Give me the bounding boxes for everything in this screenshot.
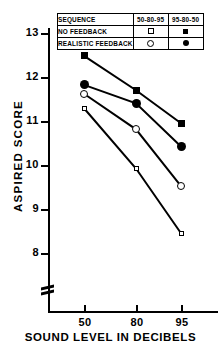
chart-figure: ASPIRED SCORE 13 12 11 10 9 8 50 80 95 S… (0, 0, 221, 352)
data-point (179, 231, 184, 236)
data-point (133, 87, 140, 94)
data-point (134, 166, 139, 171)
data-point (132, 99, 141, 108)
data-point (178, 120, 185, 127)
data-point (82, 106, 87, 111)
data-point (80, 80, 89, 89)
series-markers (0, 0, 221, 352)
data-point (177, 142, 186, 151)
data-point (80, 90, 88, 98)
data-point (132, 125, 140, 133)
data-point (177, 182, 185, 190)
data-point (81, 52, 88, 59)
